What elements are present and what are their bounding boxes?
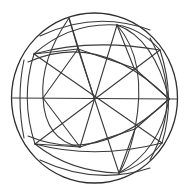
edge-ilr-ilb (80, 129, 135, 147)
edge-iul-iur (78, 49, 134, 68)
geodesic-sphere-drawing (0, 0, 188, 196)
sphere-figure (0, 0, 188, 196)
arc-lower-latitude (35, 143, 162, 152)
edge-iul-le (43, 49, 78, 98)
arc-right-to-bottom (119, 99, 169, 173)
edge-ilr-b (119, 129, 135, 173)
arc-far-left-outer (20, 60, 24, 138)
arc-far-left-inner (27, 54, 35, 144)
diagonal-ll-ur (35, 50, 160, 144)
edge-top-iul (69, 18, 78, 49)
